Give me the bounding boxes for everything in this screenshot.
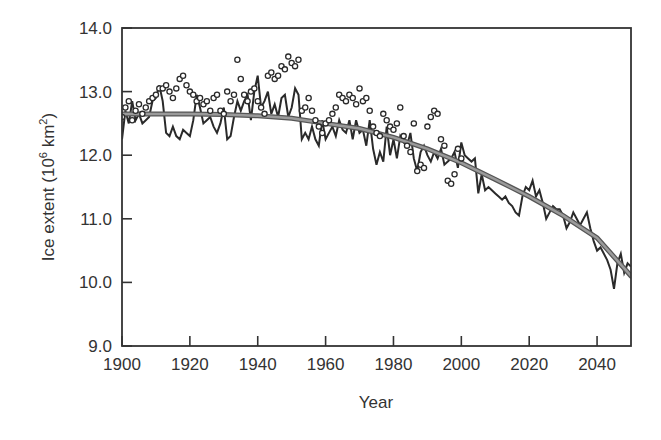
observed-point (371, 124, 376, 129)
observed-point (381, 111, 386, 116)
observed-point (343, 99, 348, 104)
observed-point (286, 54, 291, 59)
observed-point (252, 86, 257, 91)
x-tick-label: 2000 (442, 355, 480, 374)
observed-point (255, 99, 260, 104)
observed-point (140, 111, 145, 116)
observed-point (143, 105, 148, 110)
observed-point (214, 92, 219, 97)
observed-point (123, 105, 128, 110)
observed-point (136, 102, 141, 107)
observed-point (130, 118, 135, 123)
y-tick-label: 14.0 (79, 19, 112, 38)
y-axis-title: Ice extent (106 km2) (37, 113, 58, 261)
observed-point (377, 134, 382, 139)
observed-point (204, 99, 209, 104)
observed-point (333, 105, 338, 110)
observed-point (262, 111, 267, 116)
observed-point (208, 108, 213, 113)
observed-point (408, 149, 413, 154)
x-tick-label: 1900 (103, 355, 141, 374)
observed-point (269, 70, 274, 75)
observed-point (225, 89, 230, 94)
data-series-layer (119, 54, 631, 289)
observed-point (367, 108, 372, 113)
observed-point (313, 118, 318, 123)
trend-line-outline (122, 114, 631, 276)
plot-frame (122, 28, 631, 346)
observed-point (153, 92, 158, 97)
observed-point (191, 92, 196, 97)
y-tick-labels: 9.010.011.012.013.014.0 (79, 19, 112, 356)
observed-point (411, 121, 416, 126)
x-tick-label: 1980 (375, 355, 413, 374)
observed-point (425, 124, 430, 129)
observed-point (221, 111, 226, 116)
observed-point (357, 86, 362, 91)
observed-point (330, 111, 335, 116)
observed-point (401, 134, 406, 139)
observed-point (350, 95, 355, 100)
observed-point (306, 95, 311, 100)
x-tick-label: 1920 (171, 355, 209, 374)
observed-point (164, 83, 169, 88)
x-tick-label: 2020 (510, 355, 548, 374)
trend-line (122, 114, 631, 276)
observed-point (459, 156, 464, 161)
x-tick-label: 1940 (239, 355, 277, 374)
observed-point (303, 105, 308, 110)
y-tick-label: 11.0 (80, 210, 112, 229)
observed-point (435, 111, 440, 116)
observed-point (354, 102, 359, 107)
observed-point (174, 86, 179, 91)
observed-point (421, 165, 426, 170)
x-tick-label: 1960 (307, 355, 345, 374)
observed-point (452, 172, 457, 177)
observed-point (275, 73, 280, 78)
observed-point (180, 73, 185, 78)
observed-point (170, 95, 175, 100)
observed-point (404, 143, 409, 148)
observed-point (167, 89, 172, 94)
observed-point (231, 92, 236, 97)
observed-point (415, 169, 420, 174)
observed-point (364, 95, 369, 100)
observed-point (398, 105, 403, 110)
observed-point (391, 127, 396, 132)
observed-point (228, 99, 233, 104)
observed-point (245, 99, 250, 104)
observed-point (296, 57, 301, 62)
observed-point (428, 114, 433, 119)
y-tick-label: 13.0 (79, 83, 112, 102)
observed-point (259, 105, 264, 110)
observed-point (309, 108, 314, 113)
observed-point (455, 146, 460, 151)
y-tick-label: 10.0 (79, 273, 112, 292)
observed-point (133, 108, 138, 113)
observed-point (316, 124, 321, 129)
observed-point (126, 99, 131, 104)
observed-point (326, 118, 331, 123)
observed-point (184, 83, 189, 88)
observed-point (394, 121, 399, 126)
ice-extent-chart: 19001920194019601980200020202040 9.010.0… (0, 0, 661, 440)
x-tick-label: 2040 (578, 355, 616, 374)
observed-point (320, 130, 325, 135)
observed-point (449, 181, 454, 186)
observed-point (384, 118, 389, 123)
observed-point (282, 67, 287, 72)
observed-point (242, 92, 247, 97)
annual-ice-extent-line (122, 76, 631, 289)
x-tick-labels: 19001920194019601980200020202040 (103, 355, 616, 374)
y-tick-label: 12.0 (79, 146, 112, 165)
y-tick-label: 9.0 (88, 337, 112, 356)
observed-point (438, 137, 443, 142)
observed-point (292, 64, 297, 69)
observed-point (235, 57, 240, 62)
observed-point (197, 95, 202, 100)
observed-point (238, 76, 243, 81)
observed-point (442, 143, 447, 148)
x-axis-title: Year (359, 393, 394, 412)
